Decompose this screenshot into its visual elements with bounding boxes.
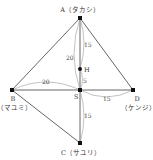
label-B: B xyxy=(11,95,16,103)
label-C: C（サユリ） xyxy=(61,149,101,157)
measure-HS: 5 xyxy=(83,77,87,84)
geometry-diagram: A（タカシ） H S B （マユミ） D （ケンジ） C（サユリ） 15 20 … xyxy=(0,0,152,160)
measure-AS: 20 xyxy=(66,54,74,61)
point-C xyxy=(78,141,82,145)
edges xyxy=(12,18,133,143)
arc-AS xyxy=(74,18,80,90)
edge-BC xyxy=(12,90,80,143)
label-S: S xyxy=(74,93,78,101)
dimension-arcs xyxy=(12,18,133,143)
point-D xyxy=(131,88,135,92)
vertices xyxy=(10,16,135,145)
measure-SD: 15 xyxy=(103,95,111,102)
measure-BS: 20 xyxy=(42,78,50,85)
edge-AD xyxy=(80,18,133,90)
label-D-name: （ケンジ） xyxy=(121,104,153,112)
point-B xyxy=(10,88,14,92)
label-B-name: （マユミ） xyxy=(0,104,32,112)
measure-SC: 15 xyxy=(84,112,92,119)
label-A: A（タカシ） xyxy=(59,5,100,14)
measure-AH: 15 xyxy=(84,41,92,48)
point-H xyxy=(78,67,82,71)
label-D: D xyxy=(134,95,139,103)
point-A xyxy=(78,16,82,20)
point-S xyxy=(78,88,82,92)
label-H: H xyxy=(84,66,90,74)
